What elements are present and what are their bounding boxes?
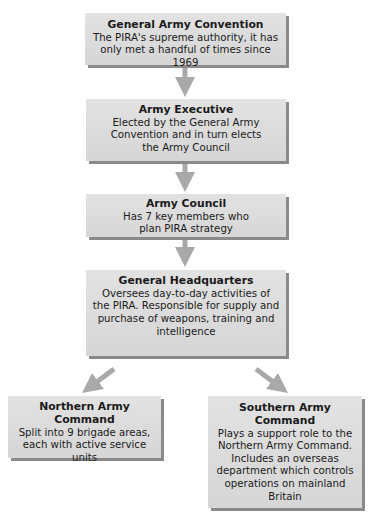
node-northern-army-command: Northern Army Command Split into 9 briga… xyxy=(8,396,161,458)
node-title: General Army Convention xyxy=(91,19,280,32)
arrow-headquarters-to-northern xyxy=(90,369,114,387)
node-southern-army-command: Southern Army Command Plays a support ro… xyxy=(208,396,362,508)
arrow-headquarters-to-southern xyxy=(256,369,280,387)
node-army-executive: Army Executive Elected by the General Ar… xyxy=(86,99,286,161)
node-title: Southern Army Command xyxy=(214,402,356,428)
node-description: Split into 9 brigade areas, each with ac… xyxy=(12,427,157,465)
node-title: Army Executive xyxy=(104,104,268,117)
node-description: Elected by the General Army Convention a… xyxy=(104,117,268,155)
node-description: Plays a support role to the Northern Arm… xyxy=(214,428,356,504)
node-general-army-convention: General Army Convention The PIRA's supre… xyxy=(85,13,286,65)
node-description: Oversees day-to-day activities of the PI… xyxy=(92,288,280,338)
node-description: Has 7 key members who plan PIRA strategy xyxy=(114,211,258,236)
node-description: The PIRA's supreme authority, it has onl… xyxy=(91,32,280,70)
node-title: Northern Army Command xyxy=(12,401,157,427)
node-title: Army Council xyxy=(114,198,258,211)
node-title: General Headquarters xyxy=(92,275,280,288)
node-general-headquarters: General Headquarters Oversees day-to-day… xyxy=(86,270,286,356)
node-army-council: Army Council Has 7 key members who plan … xyxy=(86,194,286,237)
